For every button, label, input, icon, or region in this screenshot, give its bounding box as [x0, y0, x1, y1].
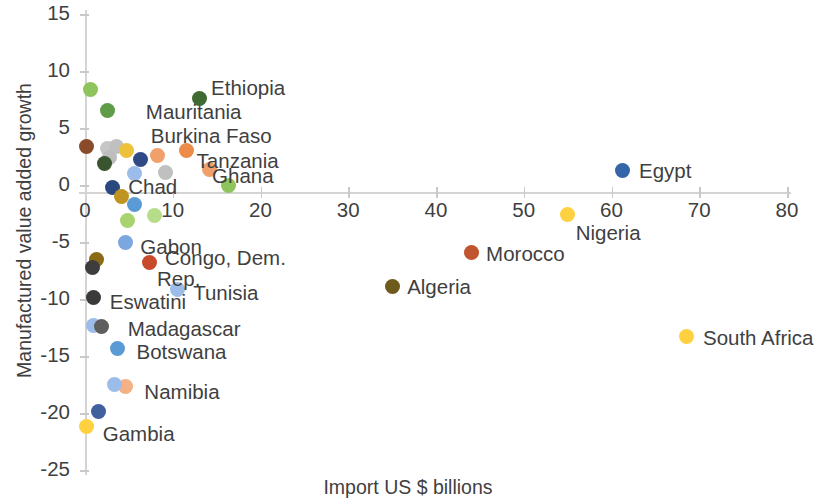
point-label: Ghana: [212, 165, 274, 187]
point-label: Egypt: [639, 160, 691, 182]
point-label: Nigeria: [576, 222, 641, 244]
scatter-chart: 01020304050607080151050-5-10-15-20-25 Et…: [0, 0, 817, 502]
point-label: Tunisia: [193, 282, 258, 304]
y-axis-title: Manufactured value added growth: [13, 66, 36, 396]
point-label: Algeria: [407, 276, 471, 298]
point-label: Burkina Faso: [151, 125, 272, 147]
point-label: Madagascar: [128, 318, 241, 340]
point-label: Gambia: [103, 423, 175, 445]
point-label: South Africa: [703, 327, 814, 349]
x-axis-title: Import US $ billions: [258, 476, 558, 499]
point-label: Morocco: [486, 243, 565, 265]
point-label: Ethiopia: [211, 77, 285, 99]
point-label: Botswana: [136, 341, 226, 363]
point-label: Chad: [128, 176, 177, 198]
point-labels-layer: EthiopiaMauritaniaBurkina FasoTanzaniaGh…: [0, 0, 817, 502]
point-label: Mauritania: [146, 101, 242, 123]
point-label: Eswatini: [110, 291, 186, 313]
point-label: Namibia: [144, 381, 219, 403]
